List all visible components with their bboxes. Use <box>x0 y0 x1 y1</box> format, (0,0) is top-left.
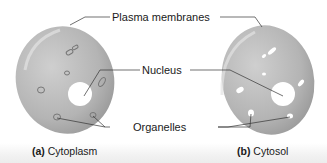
caption-b-letter: (b) <box>237 145 250 157</box>
cell-diagram <box>0 0 327 163</box>
nucleus-b <box>271 82 295 106</box>
caption-a: (a) Cytoplasm <box>32 145 97 157</box>
caption-a-letter: (a) <box>32 145 45 157</box>
caption-a-text: Cytoplasm <box>48 145 98 157</box>
label-plasma-membranes: Plasma membranes <box>112 11 210 23</box>
nucleus-a <box>68 82 92 106</box>
label-organelles: Organelles <box>133 121 186 133</box>
caption-b: (b) Cytosol <box>237 145 288 157</box>
cell-b-cytosol <box>212 17 325 144</box>
cell-a-cytoplasm <box>4 15 127 145</box>
label-nucleus: Nucleus <box>142 64 182 76</box>
caption-b-text: Cytosol <box>253 145 288 157</box>
